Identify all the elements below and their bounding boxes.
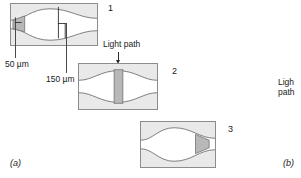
panel-3-cell <box>140 121 216 168</box>
panel-3-number: 3 <box>228 124 233 134</box>
panel-2-number: 2 <box>172 66 177 76</box>
subfigure-label-b: (b) <box>283 158 294 168</box>
subfigure-label-a: (a) <box>10 158 21 168</box>
panel-2-channel-graphic <box>79 64 157 109</box>
dimension-label-150um: 150 µm <box>46 75 75 85</box>
light-path-label-right: Ligh path <box>278 78 295 98</box>
panel-2-beam-column <box>114 70 123 104</box>
panel-3-channel-graphic <box>141 122 215 167</box>
light-path-right-line2: path <box>278 87 295 97</box>
leader-50um <box>15 23 16 58</box>
panel-1-tick-large <box>58 7 59 38</box>
light-path-right-line1: Ligh <box>278 77 294 87</box>
dimension-label-50um: 50 µm <box>5 60 29 70</box>
light-path-label-top: Light path <box>103 40 140 50</box>
panel-1-cell <box>10 3 98 46</box>
panel-2-cell <box>78 63 158 110</box>
leader-150um <box>66 23 67 73</box>
panel-1-tick-large-cap <box>58 23 66 24</box>
panel-1-number: 1 <box>108 3 113 13</box>
figure-container: 1 50 µm 150 µm Light path 2 3 Ligh path <box>0 0 301 178</box>
panel-1-channel-graphic <box>11 4 97 45</box>
